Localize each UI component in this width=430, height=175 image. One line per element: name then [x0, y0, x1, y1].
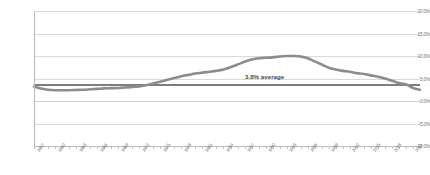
plot-area — [34, 11, 420, 146]
chart-container: 20.0% 15.0% 10.0% 5.0% 0.0% -5.0% -10.0%… — [0, 0, 430, 175]
